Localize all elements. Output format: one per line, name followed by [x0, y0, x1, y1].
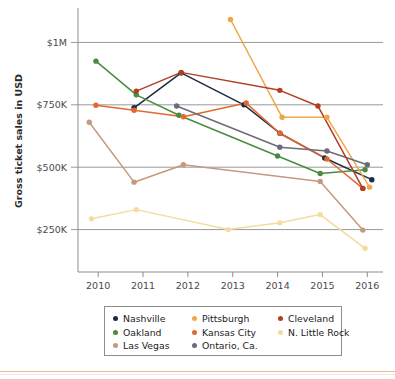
legend-label: Kansas City: [202, 328, 256, 337]
footer-rule-secondary: [0, 374, 395, 375]
data-point: [277, 131, 282, 136]
y-tick-label: $1M: [47, 37, 67, 48]
footer-rule: [0, 371, 395, 372]
data-point: [277, 220, 282, 225]
data-point: [362, 167, 367, 172]
x-tick-label: 2013: [221, 280, 245, 291]
legend-label: N. Little Rock: [288, 328, 349, 337]
series-line: [136, 72, 363, 188]
data-point: [324, 156, 329, 161]
y-tick-label: $250K: [37, 224, 68, 235]
data-point: [365, 162, 370, 167]
legend-item[interactable]: Kansas City: [192, 328, 278, 337]
y-tick-label: $500K: [37, 162, 68, 173]
data-point: [181, 162, 186, 167]
legend-label: Cleveland: [288, 314, 334, 323]
legend-item[interactable]: Las Vegas: [113, 341, 192, 350]
data-point: [315, 103, 320, 108]
data-point: [360, 186, 365, 191]
data-point: [89, 216, 94, 221]
legend-item[interactable]: Ontario, Ca.: [192, 341, 278, 350]
data-point: [228, 17, 233, 22]
data-point: [174, 103, 179, 108]
legend-swatch-icon: [192, 343, 197, 348]
data-point: [131, 108, 136, 113]
legend-label: Nashville: [123, 314, 165, 323]
series-markers: [89, 207, 368, 251]
legend-swatch-icon: [192, 330, 197, 335]
x-tick-label: 2011: [131, 280, 155, 291]
data-point: [324, 115, 329, 120]
data-point: [181, 114, 186, 119]
y-tick-label: $750K: [37, 99, 68, 110]
data-point: [362, 246, 367, 251]
y-axis-title: Gross ticket sales in USD: [13, 74, 24, 208]
series-markers: [131, 70, 374, 182]
data-point: [178, 70, 183, 75]
legend-item[interactable]: Pittsburgh: [192, 314, 278, 323]
data-point: [367, 184, 372, 189]
x-tick-label: 2012: [176, 280, 200, 291]
legend-swatch-icon: [278, 316, 283, 321]
data-point: [93, 103, 98, 108]
data-point: [369, 177, 374, 182]
data-point: [87, 120, 92, 125]
data-point: [93, 58, 98, 63]
data-point: [277, 88, 282, 93]
data-point: [134, 88, 139, 93]
data-point: [134, 207, 139, 212]
data-point: [275, 153, 280, 158]
data-point: [277, 145, 282, 150]
gross-ticket-sales-line-chart: $250K$500K$750K$1M2010201120122013201420…: [0, 0, 395, 379]
legend-item[interactable]: Cleveland: [278, 314, 351, 323]
legend-swatch-icon: [113, 316, 118, 321]
data-point: [318, 171, 323, 176]
legend-label: Pittsburgh: [202, 314, 249, 323]
legend-item[interactable]: N. Little Rock: [278, 328, 351, 337]
legend-label: Ontario, Ca.: [202, 341, 258, 350]
data-point: [243, 100, 248, 105]
legend-swatch-icon: [192, 316, 197, 321]
legend-label: Las Vegas: [123, 341, 169, 350]
series-markers: [93, 100, 365, 191]
legend-swatch-icon: [113, 330, 118, 335]
data-point: [279, 115, 284, 120]
data-point: [226, 227, 231, 232]
x-tick-label: 2016: [355, 280, 379, 291]
series-line: [134, 73, 372, 180]
legend-item[interactable]: Nashville: [113, 314, 192, 323]
x-tick-label: 2010: [86, 280, 110, 291]
legend-item[interactable]: Oakland: [113, 328, 192, 337]
series-markers: [87, 120, 366, 233]
chart-legend: NashvillePittsburghClevelandOaklandKansa…: [104, 306, 342, 356]
legend-label: Oakland: [123, 328, 161, 337]
data-point: [131, 179, 136, 184]
x-tick-label: 2014: [266, 280, 290, 291]
legend-swatch-icon: [278, 330, 283, 335]
series-nashville: [134, 73, 372, 180]
series-cleveland: [136, 72, 363, 188]
x-tick-label: 2015: [310, 280, 334, 291]
data-point: [318, 212, 323, 217]
data-point: [360, 227, 365, 232]
data-point: [324, 148, 329, 153]
data-point: [318, 179, 323, 184]
legend-swatch-icon: [113, 343, 118, 348]
